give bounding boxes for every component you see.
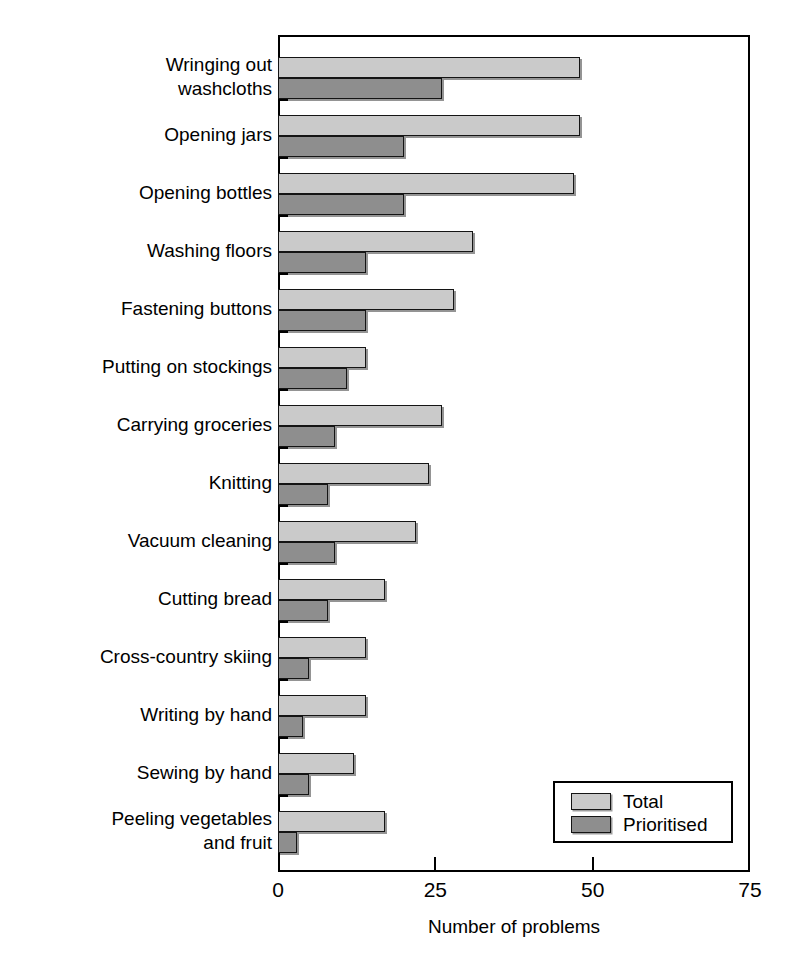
bar-total xyxy=(278,173,574,194)
bar-group xyxy=(278,231,750,273)
bar-group xyxy=(278,173,750,215)
y-axis-label: Knitting xyxy=(8,471,272,495)
bar-total xyxy=(278,521,416,542)
y-axis-tick xyxy=(278,331,288,333)
bar-group xyxy=(278,463,750,505)
bar-total xyxy=(278,579,385,600)
bar-group xyxy=(278,405,750,447)
bar-group xyxy=(278,57,750,99)
bar-prioritised xyxy=(278,136,404,157)
y-axis-label: Fastening buttons xyxy=(8,297,272,321)
y-axis-tick xyxy=(278,389,288,391)
bar-chart: Hand related activity problems Wringing … xyxy=(0,0,788,970)
bar-prioritised xyxy=(278,774,309,795)
legend-item-prioritised: Prioritised xyxy=(571,813,731,836)
bar-total xyxy=(278,811,385,832)
y-axis-label: Vacuum cleaning xyxy=(8,529,272,553)
bar-group xyxy=(278,521,750,563)
bar-prioritised xyxy=(278,426,335,447)
y-axis-tick xyxy=(278,621,288,623)
bar-total xyxy=(278,463,429,484)
bar-total xyxy=(278,637,366,658)
legend: Total Prioritised xyxy=(553,781,733,843)
y-axis-tick xyxy=(278,273,288,275)
y-axis-tick xyxy=(278,215,288,217)
bar-prioritised xyxy=(278,484,328,505)
y-axis-label: Opening bottles xyxy=(8,181,272,205)
legend-swatch-prioritised-icon xyxy=(571,816,611,833)
y-axis-tick xyxy=(278,505,288,507)
y-axis-label: Carrying groceries xyxy=(8,413,272,437)
bar-prioritised xyxy=(278,832,297,853)
legend-label-total: Total xyxy=(623,792,663,811)
bar-total xyxy=(278,695,366,716)
y-axis-label: Opening jars xyxy=(8,123,272,147)
y-axis-label: Sewing by hand xyxy=(8,761,272,785)
bar-prioritised xyxy=(278,716,303,737)
legend-item-total: Total xyxy=(571,790,731,813)
bar-total xyxy=(278,57,580,78)
x-axis-tick-label: 50 xyxy=(563,878,623,902)
bars-layer xyxy=(278,35,750,872)
x-axis-tick-label: 25 xyxy=(405,878,465,902)
bar-prioritised xyxy=(278,658,309,679)
bar-prioritised xyxy=(278,542,335,563)
x-axis-tick-label: 0 xyxy=(248,878,308,902)
y-axis-label: Putting on stockings xyxy=(8,355,272,379)
bar-total xyxy=(278,405,442,426)
y-axis-tick xyxy=(278,563,288,565)
bar-total xyxy=(278,347,366,368)
x-axis-title: Number of problems xyxy=(278,916,750,938)
bar-group xyxy=(278,695,750,737)
y-axis-tick xyxy=(278,737,288,739)
bar-prioritised xyxy=(278,252,366,273)
bar-prioritised xyxy=(278,310,366,331)
x-axis-tick xyxy=(592,857,594,872)
bar-prioritised xyxy=(278,194,404,215)
bar-group xyxy=(278,289,750,331)
bar-group xyxy=(278,579,750,621)
x-axis-tick-label: 75 xyxy=(720,878,780,902)
bar-total xyxy=(278,231,473,252)
y-axis-label: Cutting bread xyxy=(8,587,272,611)
y-axis-tick xyxy=(278,99,288,101)
y-axis-tick xyxy=(278,447,288,449)
y-axis-label: Peeling vegetables and fruit xyxy=(8,807,272,855)
legend-swatch-total-icon xyxy=(571,793,611,810)
bar-prioritised xyxy=(278,368,347,389)
y-axis-label: Writing by hand xyxy=(8,703,272,727)
bar-group xyxy=(278,637,750,679)
y-axis-label: Wringing out washcloths xyxy=(8,53,272,101)
y-axis-tick xyxy=(278,157,288,159)
y-axis-label: Cross-country skiing xyxy=(8,645,272,669)
bar-total xyxy=(278,753,354,774)
bar-total xyxy=(278,115,580,136)
bar-total xyxy=(278,289,454,310)
legend-label-prioritised: Prioritised xyxy=(623,815,707,834)
bar-group xyxy=(278,115,750,157)
y-axis-label: Washing floors xyxy=(8,239,272,263)
bar-group xyxy=(278,347,750,389)
y-axis-tick xyxy=(278,795,288,797)
y-axis-tick xyxy=(278,679,288,681)
bar-prioritised xyxy=(278,78,442,99)
x-axis-tick xyxy=(434,857,436,872)
bar-prioritised xyxy=(278,600,328,621)
